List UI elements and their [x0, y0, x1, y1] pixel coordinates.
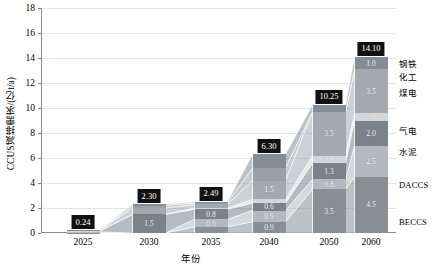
y-tick-label: 0 [0, 228, 35, 238]
bar-segment-气电[interactable] [253, 199, 286, 203]
y-tick-mark [38, 33, 41, 34]
bar-segment-钢铁[interactable]: 1.0 [355, 57, 388, 70]
bar-2040[interactable]: 0.90.90.61.5 [253, 154, 286, 233]
y-tick-mark [38, 208, 41, 209]
bar-segment-BECCS[interactable] [67, 233, 100, 234]
bar-2050[interactable]: 3.50.81.30.63.5 [313, 105, 346, 233]
bar-segment-钢铁[interactable] [195, 202, 228, 203]
bar-segment-水泥[interactable]: 1.3 [313, 163, 346, 179]
y-tick-label: 4 [0, 178, 35, 188]
bar-segment-气电[interactable] [195, 208, 228, 209]
legend-item-钢铁[interactable]: 钢铁 [399, 57, 417, 69]
bar-segment-煤电[interactable]: 3.5 [313, 112, 346, 156]
bar-segment-水泥[interactable]: 0.8 [195, 209, 228, 219]
total-label-2035: 2.49 [200, 187, 223, 201]
total-label-2050: 10.25 [315, 90, 342, 104]
bar-2035[interactable]: 0.60.8 [195, 202, 228, 233]
y-tick-mark [38, 8, 41, 9]
y-tick-label: 10 [0, 103, 35, 113]
bar-segment-气电[interactable]: 0.6 [355, 113, 388, 121]
y-tick-label: 6 [0, 153, 35, 163]
legend-item-水泥[interactable]: 水泥 [399, 145, 417, 157]
bar-segment-钢铁[interactable] [133, 204, 166, 205]
bar-segment-化工[interactable] [133, 206, 166, 209]
bar-segment-水泥[interactable]: 1.5 [133, 214, 166, 233]
bar-segment-气电[interactable]: 0.6 [313, 156, 346, 164]
bar-segment-BECCS[interactable]: 3.5 [313, 189, 346, 233]
bar-segment-煤电[interactable] [67, 230, 100, 231]
y-tick-mark [38, 183, 41, 184]
bar-segment-煤电[interactable] [133, 208, 166, 214]
y-tick-mark [38, 108, 41, 109]
x-tick-label-2025: 2025 [74, 237, 93, 247]
y-tick-mark [38, 158, 41, 159]
bar-segment-化工[interactable] [195, 203, 228, 205]
plot-area: 1.50.60.80.90.90.61.53.50.81.30.63.54.52… [41, 8, 396, 233]
bar-segment-水泥[interactable] [67, 231, 100, 232]
bar-2060[interactable]: 4.52.52.00.63.51.0 [355, 57, 388, 233]
legend-item-BECCS[interactable]: BECCS [399, 217, 427, 227]
bar-segment-BECCS[interactable]: 0.9 [253, 222, 286, 233]
bar-segment-BECCS[interactable] [195, 227, 228, 233]
y-tick-label: 2 [0, 203, 35, 213]
total-label-2025: 0.24 [72, 215, 95, 229]
x-tick-label-2035: 2035 [202, 237, 221, 247]
bar-segment-DACCS[interactable]: 0.6 [195, 219, 228, 227]
bar-segment-钢铁[interactable] [313, 105, 346, 112]
chart-container: CCUS减排需求/(亿t/a) 1.50.60.80.90.90.61.53.5… [0, 0, 445, 268]
x-tick-label-2050: 2050 [320, 237, 339, 247]
y-tick-mark [38, 58, 41, 59]
bar-segment-水泥[interactable]: 2.0 [355, 121, 388, 146]
bar-segment-化工[interactable] [253, 168, 286, 181]
total-label-2030: 2.30 [138, 189, 161, 203]
y-tick-mark [38, 133, 41, 134]
y-tick-mark [38, 233, 41, 234]
y-tick-label: 18 [0, 3, 35, 13]
bar-segment-水泥[interactable]: 0.6 [253, 203, 286, 211]
x-tick-label-2060: 2060 [362, 237, 381, 247]
total-label-2040: 6.30 [258, 139, 281, 153]
bar-segment-DACCS[interactable] [67, 232, 100, 233]
y-tick-label: 14 [0, 53, 35, 63]
bar-2030[interactable]: 1.5 [133, 204, 166, 233]
legend-item-煤电[interactable]: 煤电 [399, 86, 417, 98]
bar-segment-DACCS[interactable]: 0.8 [313, 179, 346, 189]
bar-segment-煤电[interactable]: 3.5 [355, 69, 388, 113]
y-tick-mark [38, 83, 41, 84]
bar-segment-钢铁[interactable] [253, 154, 286, 168]
y-tick-label: 8 [0, 128, 35, 138]
legend-item-气电[interactable]: 气电 [399, 124, 417, 136]
y-tick-label: 12 [0, 78, 35, 88]
bar-segment-DACCS[interactable]: 0.9 [253, 211, 286, 222]
legend-item-DACCS[interactable]: DACCS [399, 180, 428, 190]
x-axis-title: 年份 [181, 251, 201, 265]
bar-segment-BECCS[interactable]: 4.5 [355, 177, 388, 233]
legend-item-化工[interactable]: 化工 [399, 70, 417, 82]
x-tick-label-2030: 2030 [140, 237, 159, 247]
bar-segment-煤电[interactable] [195, 204, 228, 208]
y-tick-label: 16 [0, 28, 35, 38]
bar-segment-煤电[interactable]: 1.5 [253, 181, 286, 200]
bar-2025[interactable] [67, 230, 100, 233]
total-label-2060: 14.10 [357, 42, 384, 56]
bar-segment-DACCS[interactable]: 2.5 [355, 146, 388, 177]
x-tick-label-2040: 2040 [260, 237, 279, 247]
